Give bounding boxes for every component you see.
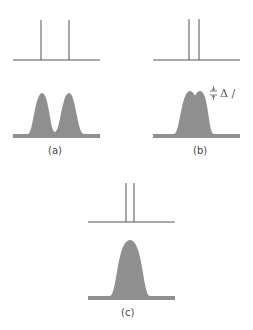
panel-c-peak [88, 240, 175, 300]
delta-label: Δ / [220, 87, 235, 100]
panel-a-label: (a) [48, 145, 62, 156]
panel-a-peaks [13, 93, 100, 138]
panel-c-label: (c) [121, 307, 134, 318]
arrow-up-icon [212, 96, 215, 101]
arrow-down-icon [212, 86, 215, 91]
panel-b: Δ / (b) [153, 19, 240, 156]
panel-c: (c) [88, 183, 175, 318]
panel-b-label: (b) [193, 145, 207, 156]
panel-a: (a) [13, 20, 100, 156]
resolution-diagram: (a) Δ / (b) (c) [0, 0, 253, 330]
delta-annotation: Δ / [210, 86, 235, 100]
